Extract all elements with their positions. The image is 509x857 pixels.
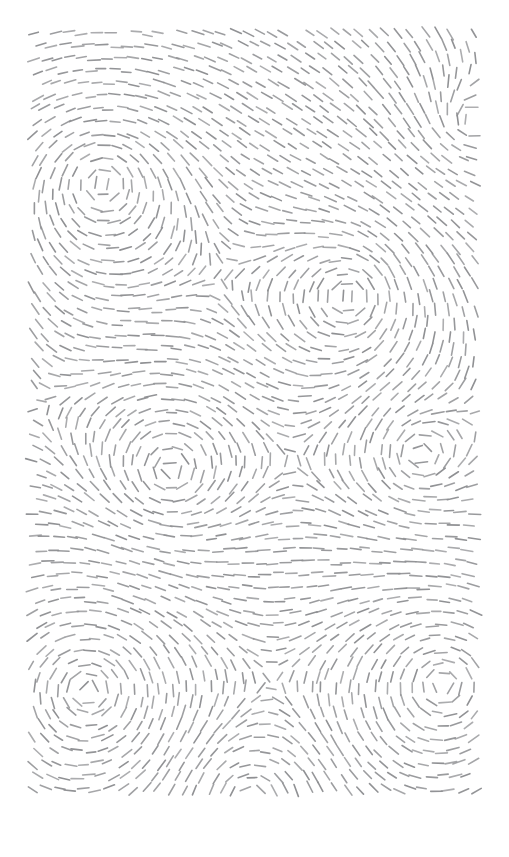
flow-dash [166,387,177,388]
flow-dash [121,295,133,296]
flow-dash [92,82,102,83]
flow-dash [274,551,287,552]
flow-dash [106,337,116,338]
flow-dash [79,360,89,361]
flow-dash [110,68,120,69]
flow-dash [96,120,107,121]
flow-dash [104,361,115,362]
flow-dash [292,587,303,588]
flow-dash [36,524,48,525]
flow-dash [129,308,140,309]
flow-dash [435,303,436,315]
flow-dash [254,588,266,589]
flow-dash [341,284,352,285]
flow-dash [139,308,151,309]
flow-dash [251,290,252,301]
flow-dash [426,576,437,577]
flow-dash [89,638,99,639]
flow-dash [323,576,336,577]
flow-dash [83,774,95,775]
flow-dash [269,587,279,588]
flow-dash [201,243,202,255]
flow-dash [430,509,441,510]
flow-dash [319,237,329,238]
flow-dash [433,538,443,539]
flow-dash [161,374,173,375]
flow-dash [250,750,259,751]
flow-dash [338,274,348,275]
flow-dash [78,788,89,789]
flow-dash [47,576,57,577]
flow-dash [102,260,114,261]
flow-dash [448,547,459,548]
flow-dash [427,316,428,327]
flow-dash [117,311,129,312]
flow-dash [396,303,397,314]
flow-dash [141,363,151,364]
flow-dash [60,374,70,375]
flow-dash [232,281,233,290]
flow-dash [145,350,157,351]
flow-dash [223,682,224,694]
flow-dash [95,44,108,45]
flow-dash [162,345,173,346]
flow-dash [354,562,366,563]
flow-dash [72,572,82,573]
flow-dash [83,44,95,45]
flow-dash [267,564,278,565]
flow-dash [147,685,148,697]
flow-dash [352,693,353,704]
flow-dash [168,359,178,360]
flow-dash [285,425,294,426]
flow-dash [465,115,466,124]
flow-dash [114,261,124,262]
flow-dash [258,550,270,551]
flow-dash [410,575,422,576]
flow-dash [439,702,451,703]
flow-dash [102,442,103,455]
flow-dash [88,60,101,61]
flow-dash [224,548,235,549]
flow-dash [313,548,324,549]
flow-dash [335,572,347,573]
flow-dash [441,92,442,101]
flow-dash [274,223,284,224]
flow-dash [457,411,467,412]
flow-dash [213,551,223,552]
flow-dash [426,777,437,778]
flow-dash [293,485,303,486]
flow-dash [58,551,69,552]
flow-dash [436,753,448,754]
flow-dash [131,31,141,32]
flow-dash [435,652,447,653]
flow-dash [99,244,110,245]
flow-dash [464,525,475,526]
flow-dash [115,335,126,336]
flow-dash [399,573,410,574]
artwork-canvas [0,0,509,857]
flow-dash [446,536,457,537]
flow-dash [173,685,174,697]
flow-dash [267,290,268,301]
flow-dash [394,561,406,562]
flow-dash [131,180,132,192]
flow-dash [40,693,41,704]
flow-dash [94,107,103,108]
flow-dash [417,613,430,614]
flow-dash [198,550,209,551]
flow-dash [302,387,315,388]
flow-dash [349,574,360,575]
flow-dash [171,526,183,527]
flow-dash [128,335,139,336]
flow-dash [56,573,69,574]
flow-dash [294,412,306,413]
flow-dash [429,635,439,636]
flow-dash [210,253,211,265]
flow-dash [302,560,314,561]
flow-dash [298,396,311,397]
flow-dash [390,445,391,457]
flow-dash [293,385,302,386]
flow-dash [257,235,266,236]
flow-dash [425,307,426,317]
flow-dash [325,346,336,347]
